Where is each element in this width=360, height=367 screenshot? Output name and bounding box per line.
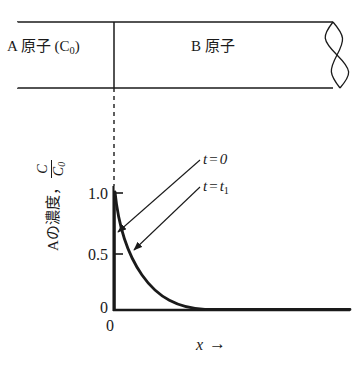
x-axis-title: x → — [196, 336, 226, 353]
y-axis-tick-label-0-5: 0.5 — [72, 247, 108, 263]
y-axis-tick-label-1-0: 1.0 — [72, 186, 108, 202]
annotation-t1-equals: = — [207, 178, 219, 194]
region-b-label: B 原子 — [191, 39, 235, 54]
annotation-t0-equals: = — [207, 151, 219, 167]
diffusion-figure: A 原子 (C0) B 原子 1.0 0.5 0 0 Aの濃度， C C0 x … — [0, 0, 360, 367]
y-axis-tick-label-0: 0 — [72, 300, 108, 316]
y-axis-fraction-denominator: C0 — [52, 160, 68, 178]
leader-arrow-t-equals-t1 — [134, 187, 200, 250]
annotation-t0-value: 0 — [220, 151, 228, 167]
y-axis-title-text: Aの濃度， — [46, 180, 61, 251]
annotation-t-equals-t1: t=t1 — [203, 179, 229, 196]
leader-arrow-t-equals-0 — [118, 160, 200, 232]
y-axis-fraction-denominator-sub: 0 — [56, 162, 67, 167]
y-axis-fraction-denominator-base: C — [51, 167, 66, 176]
region-a-label: A 原子 (C0) — [7, 39, 80, 56]
y-axis-fraction-numerator: C — [36, 162, 51, 175]
x-axis-tick-label-0: 0 — [106, 318, 114, 334]
x-axis-title-text: x — [196, 337, 203, 353]
annotation-t-equals-0: t=0 — [203, 152, 227, 167]
annotation-t1-value-sub: 1 — [224, 185, 229, 196]
curve-t-equals-t1 — [115, 192, 350, 310]
bar-break-symbol-left — [325, 22, 348, 88]
region-a-label-prefix: A 原子 (C — [7, 38, 70, 54]
region-a-label-suffix: ) — [75, 38, 80, 54]
y-axis-title-fraction: C C0 — [36, 160, 67, 178]
right-arrow-icon: → — [209, 335, 226, 352]
y-axis-title: Aの濃度， C C0 — [42, 81, 64, 251]
